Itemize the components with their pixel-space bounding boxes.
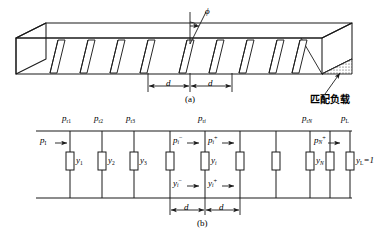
node-label-pr2: pr2	[94, 114, 103, 124]
waveguide-slot	[239, 40, 254, 73]
slot-tilt-angle-indicator	[190, 12, 206, 44]
shunt-branch	[272, 131, 280, 198]
shunt-branch	[98, 131, 106, 198]
node-label-prN: prN	[302, 114, 312, 124]
tilt-angle-label: ϕ	[205, 7, 210, 16]
admittance-label-y2: y2	[108, 156, 115, 166]
waveguide-slot	[209, 40, 224, 73]
waveguide-slot	[292, 40, 307, 73]
admittance-label-yi-minus: yi−	[173, 178, 182, 189]
input-power-label: pI	[40, 136, 46, 146]
admittance-label-y3: y3	[140, 156, 147, 166]
matched-load-label: 匹配负载	[310, 95, 350, 105]
matched-load-leader	[325, 73, 340, 94]
node-label-pr1: pr1	[62, 114, 71, 124]
shunt-branch-load	[346, 131, 354, 198]
node-label-pr3: pr3	[126, 114, 135, 124]
waveguide-slot	[80, 40, 95, 73]
node-label-pL: pL	[341, 114, 349, 124]
shunt-branch	[66, 131, 74, 198]
circuit-rails	[36, 131, 352, 198]
waveguide-slot	[50, 40, 65, 73]
power-label-pi-minus: pi−	[173, 135, 183, 146]
waveguide-slot	[140, 40, 155, 73]
power-label-pN-plus: pN+	[314, 135, 326, 146]
matched-load-absorber	[301, 38, 352, 74]
shunt-branch	[326, 131, 334, 198]
power-label-pi-plus: pi+	[208, 135, 218, 146]
spacing-dimension-b	[170, 198, 240, 215]
waveguide-slot	[269, 40, 284, 73]
slotted-waveguide-array-figure	[0, 0, 381, 236]
spacing-label-b-left: d	[184, 203, 189, 212]
node-label-pri: pri	[198, 114, 206, 124]
spacing-dimension-a	[148, 73, 232, 92]
spacing-label-a-right: d	[208, 79, 213, 88]
waveguide-slot	[179, 40, 194, 73]
admittance-label-yi-plus: yi+	[208, 178, 217, 189]
caption-a: (a)	[185, 95, 195, 104]
spacing-label-a-left: d	[166, 79, 171, 88]
waveguide-slot	[110, 40, 125, 73]
shunt-branch	[236, 131, 244, 198]
waveguide-slot-group	[50, 40, 307, 73]
admittance-label-yi: yi	[211, 156, 217, 166]
admittance-label-y1: y1	[76, 156, 83, 166]
shunt-branch	[306, 131, 314, 198]
shunt-branch	[130, 131, 138, 198]
spacing-label-b-right: d	[219, 203, 224, 212]
admittance-label-yN: yN	[316, 156, 324, 166]
caption-b: (b)	[197, 219, 208, 228]
load-admittance-label: yL=1	[356, 156, 374, 166]
